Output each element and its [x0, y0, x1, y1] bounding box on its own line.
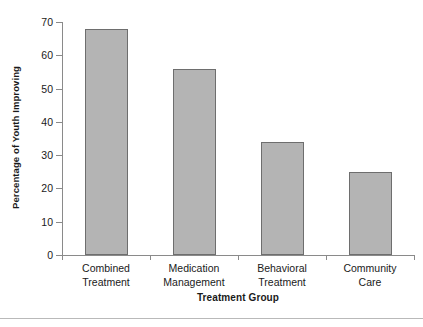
category-label-line: Behavioral [238, 262, 326, 276]
y-axis-tick-label: 0 [47, 249, 53, 261]
y-axis-tick-label: 30 [41, 149, 53, 161]
x-axis-category-label: MedicationManagement [150, 262, 238, 289]
bottom-divider [0, 318, 423, 319]
y-axis-tick-label: 60 [41, 49, 53, 61]
x-axis-tick [326, 255, 327, 260]
category-label-line: Management [150, 276, 238, 290]
x-axis-tick [238, 255, 239, 260]
x-axis-title: Treatment Group [62, 292, 414, 303]
x-axis-category-label: CombinedTreatment [62, 262, 150, 289]
y-axis-tick [56, 222, 62, 223]
bar [85, 29, 128, 255]
x-axis-tick [150, 255, 151, 260]
y-axis-tick [56, 55, 62, 56]
y-axis-tick-label: 50 [41, 83, 53, 95]
bar [349, 172, 392, 255]
y-axis-tick-label: 10 [41, 216, 53, 228]
bar [173, 69, 216, 255]
x-axis-category-label: BehavioralTreatment [238, 262, 326, 289]
y-axis-tick-label: 40 [41, 116, 53, 128]
category-label-line: Care [326, 276, 414, 290]
x-axis-tick [62, 255, 63, 260]
category-label-line: Treatment [62, 276, 150, 290]
y-axis-tick [56, 22, 62, 23]
y-axis-tick-label: 20 [41, 182, 53, 194]
y-axis-tick [56, 122, 62, 123]
category-label-line: Treatment [238, 276, 326, 290]
y-axis-tick [56, 188, 62, 189]
y-axis-tick [56, 155, 62, 156]
category-label-line: Community [326, 262, 414, 276]
bar-chart: Percentage of Youth Improving 0102030405… [0, 0, 423, 327]
y-axis-tick-label: 70 [41, 16, 53, 28]
plot-area: 010203040506070 [62, 22, 414, 255]
category-label-line: Combined [62, 262, 150, 276]
x-axis-tick [414, 255, 415, 260]
y-axis-title: Percentage of Youth Improving [8, 10, 24, 265]
y-axis-tick [56, 89, 62, 90]
x-axis-category-label: CommunityCare [326, 262, 414, 289]
bar [261, 142, 304, 255]
category-label-line: Medication [150, 262, 238, 276]
